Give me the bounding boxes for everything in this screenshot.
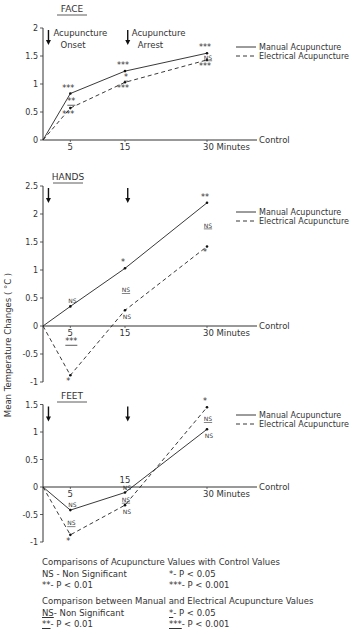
- significance-annotation: *: [203, 248, 207, 257]
- control-comparison-legend: Comparisons of Acupuncture Values with C…: [42, 557, 280, 591]
- series-legend: Manual AcupunctureElectrical Acupuncture: [236, 411, 349, 429]
- data-point: [124, 504, 127, 507]
- y-tick-label: -0.5: [22, 511, 38, 520]
- significance-annotation: NS: [123, 484, 131, 491]
- panel-hands: HANDS-1-0.500.511.522.5Control51530 Minu…: [22, 172, 349, 387]
- data-point: [206, 428, 209, 431]
- acupuncture-temperature-chart: FACE00.511.52Control51530 MinutesAcupunc…: [0, 0, 353, 634]
- data-point: [69, 305, 72, 308]
- y-tick-label: 0: [33, 136, 38, 145]
- significance-annotation: NS: [68, 297, 76, 304]
- y-tick-label: -0.5: [22, 350, 38, 359]
- x-tick-label-5: 5: [68, 142, 73, 152]
- series-legend: Manual AcupunctureElectrical Acupuncture: [236, 43, 349, 61]
- arrowhead-icon: [46, 40, 51, 45]
- significance-annotation: ***: [199, 62, 211, 71]
- significance-annotation: NS: [123, 508, 131, 515]
- y-tick-label: 2: [33, 24, 38, 33]
- y-tick-label: 1.5: [25, 52, 38, 61]
- legend-p001: ***- P < 0.001: [169, 580, 230, 591]
- legend-p05: *- P < 0.05: [169, 569, 216, 580]
- data-point: [69, 92, 72, 95]
- series-legend: Manual AcupunctureElectrical Acupuncture: [236, 208, 349, 226]
- legend-between-p001: ***- P < 0.001: [169, 619, 230, 630]
- arrowhead-icon: [125, 417, 130, 422]
- x-tick-label-15: 15: [120, 142, 131, 152]
- significance-annotation: NS: [205, 432, 213, 439]
- significance-annotation: ***: [117, 61, 129, 70]
- legend-ns: NS - Non Significant: [42, 569, 169, 580]
- data-point: [206, 406, 209, 409]
- data-point: [206, 245, 209, 248]
- data-point: [124, 309, 127, 312]
- arrest-label: Acupuncture: [132, 28, 186, 38]
- y-axis-label: Mean Temperature Changes ( °C ): [3, 273, 13, 417]
- significance-annotation: NS: [123, 313, 131, 320]
- control-label: Control: [259, 321, 290, 331]
- control-label: Control: [259, 135, 290, 145]
- y-tick-label: 1: [33, 266, 38, 275]
- significance-annotation: *: [121, 258, 125, 267]
- y-tick-label: 1: [33, 80, 38, 89]
- y-tick-label: 1.5: [25, 401, 38, 410]
- data-point: [124, 491, 127, 494]
- panel-feet: FEET-1-0.500.511.5Control51530 MinutesNS…: [22, 391, 349, 547]
- between-annotation: NS: [204, 222, 212, 229]
- significance-annotation: *: [66, 537, 70, 546]
- legend-electrical-label: Electrical Acupuncture: [259, 420, 349, 429]
- y-tick-label: 1.5: [25, 238, 38, 247]
- significance-annotation: ***: [199, 43, 211, 52]
- between-annotation: NS: [204, 415, 212, 422]
- manual-series-line: [43, 203, 207, 326]
- y-tick-label: 0.5: [25, 294, 38, 303]
- panel-title: HANDS: [52, 172, 85, 182]
- y-tick-label: 0.5: [25, 108, 38, 117]
- y-tick-label: 1: [33, 428, 38, 437]
- legend-electrical-label: Electrical Acupuncture: [259, 217, 349, 226]
- control-legend-heading: Comparisons of Acupuncture Values with C…: [42, 557, 280, 568]
- legend-electrical-label: Electrical Acupuncture: [259, 52, 349, 61]
- data-point: [69, 534, 72, 537]
- arrowhead-icon: [125, 40, 130, 45]
- legend-between-p05: *- P < 0.05: [169, 608, 216, 619]
- significance-annotation: NS: [68, 501, 76, 508]
- between-comparison-legend: Comparison between Manual and Electrical…: [42, 596, 313, 630]
- between-annotation: **: [67, 97, 75, 106]
- arrowhead-icon: [125, 198, 130, 203]
- panel-face: FACE00.511.52Control51530 MinutesAcupunc…: [25, 4, 349, 152]
- arrest-label: Arrest: [138, 40, 164, 50]
- significance-annotation: ***: [62, 110, 74, 119]
- x-axis-label: 30 Minutes: [203, 328, 251, 338]
- between-annotation: NS: [122, 496, 130, 503]
- x-axis-label: 30 Minutes: [203, 489, 251, 499]
- legend-between-ns: NS - Non Significant: [42, 608, 169, 619]
- arrowhead-icon: [46, 417, 51, 422]
- y-tick-label: 2: [33, 210, 38, 219]
- between-legend-heading: Comparison between Manual and Electrical…: [42, 596, 313, 607]
- data-point: [69, 107, 72, 110]
- legend-manual-label: Manual Acupuncture: [259, 43, 341, 52]
- x-axis-label: 30 Minutes: [203, 142, 251, 152]
- between-annotation: ***: [65, 337, 77, 346]
- y-tick-label: -1: [30, 378, 38, 387]
- data-point: [69, 509, 72, 512]
- panel-title: FEET: [61, 391, 84, 401]
- legend-manual-label: Manual Acupuncture: [259, 208, 341, 217]
- onset-label: Onset: [60, 40, 86, 50]
- legend-p01: **- P < 0.01: [42, 580, 169, 591]
- significance-annotation: ***: [62, 84, 74, 93]
- between-annotation: *: [124, 73, 128, 82]
- between-annotation: NS: [67, 519, 75, 526]
- y-tick-label: 0: [33, 483, 38, 492]
- significance-annotation: *: [66, 377, 70, 386]
- y-tick-label: 0.5: [25, 456, 38, 465]
- between-annotation: NS: [204, 54, 212, 61]
- electrical-series-line: [43, 407, 207, 535]
- significance-annotation: **: [201, 193, 209, 202]
- between-annotation: NS: [122, 286, 130, 293]
- arrowhead-icon: [46, 198, 51, 203]
- y-tick-label: 0: [33, 322, 38, 331]
- onset-label: Acupuncture: [53, 28, 107, 38]
- legend-manual-label: Manual Acupuncture: [259, 411, 341, 420]
- data-point: [124, 267, 127, 270]
